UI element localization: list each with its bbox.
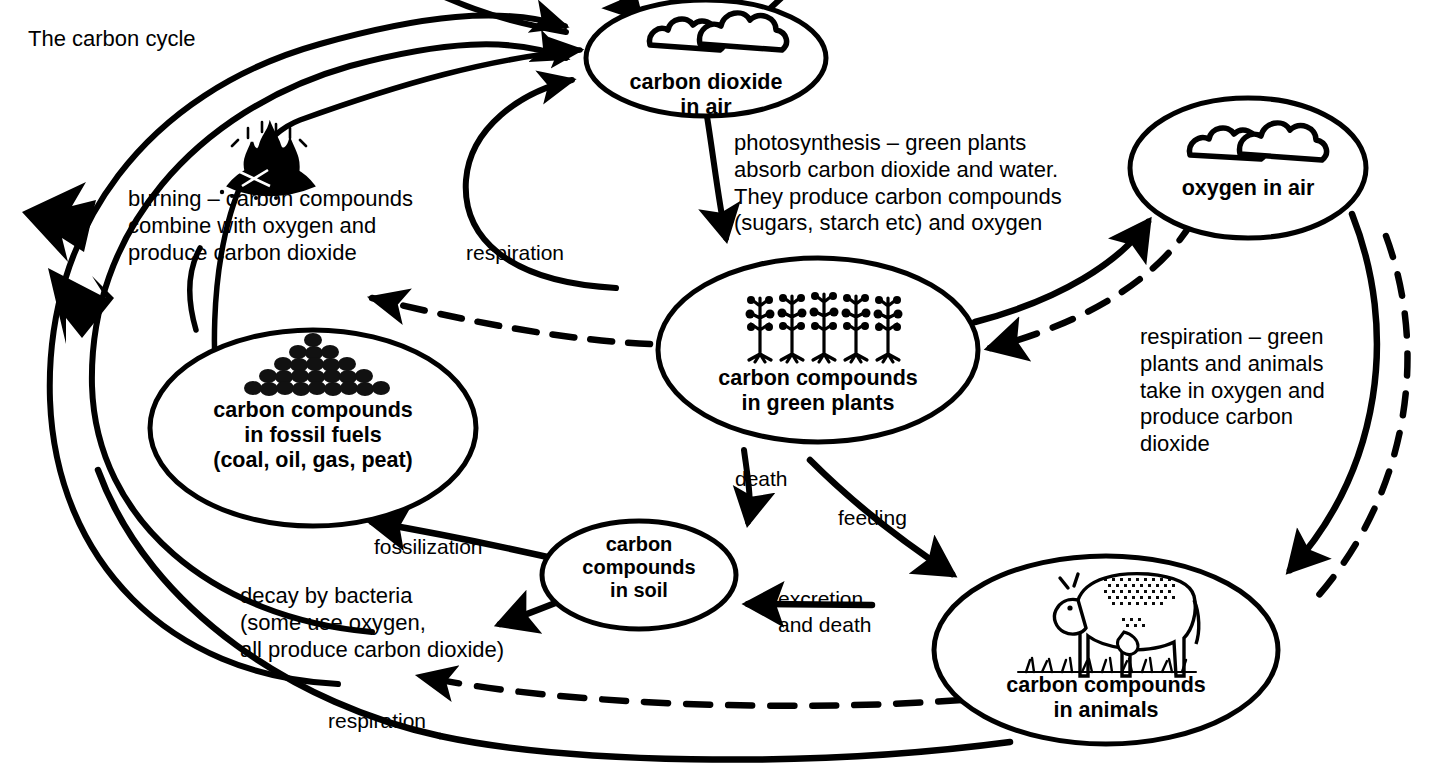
node-label-animals: carbon compounds in animals xyxy=(966,673,1246,723)
arrow-oxygen-to-animals-dashed xyxy=(1318,236,1407,596)
arrow-respiration-bottom xyxy=(440,736,1010,760)
node-label-soil: carbon compounds in soil xyxy=(562,533,716,603)
description-photosynthesis: photosynthesis – green plants absorb car… xyxy=(734,130,1062,237)
arrow-plants-to-fossil-dashed xyxy=(372,298,650,344)
carbon-cycle-diagram: The carbon cycle carbon dioxide in air o… xyxy=(0,0,1453,775)
node-label-oxygen: oxygen in air xyxy=(1148,176,1348,201)
arrow-label-death: death xyxy=(735,466,788,492)
description-decay: decay by bacteria (some use oxygen, all … xyxy=(240,583,504,663)
arrow-photosynthesis-co2-to-plants xyxy=(706,110,726,238)
arrow-label-excretion: excretion and death xyxy=(778,586,871,637)
page-title: The carbon cycle xyxy=(28,26,196,53)
arrow-label-fossilization: fossilization xyxy=(374,534,483,560)
arrow-label-respiration-plants: respiration xyxy=(466,240,564,266)
big-arrowhead-lower xyxy=(48,268,114,344)
arrow-animals-respiration-dashed xyxy=(420,676,962,706)
description-respiration-right: respiration – green plants and animals t… xyxy=(1140,324,1325,458)
node-label-plants: carbon compounds in green plants xyxy=(678,366,958,416)
node-label-fossil: carbon compounds in fossil fuels (coal, … xyxy=(168,398,458,473)
node-shape-oxygen xyxy=(1130,98,1366,238)
big-arrowhead-upper xyxy=(22,182,96,262)
node-label-co2: carbon dioxide in air xyxy=(606,70,806,120)
description-burning: burning – carbon compounds combine with … xyxy=(128,186,413,266)
arrow-label-feeding: feeding xyxy=(838,505,907,531)
arrow-label-respiration-bottom: respiration xyxy=(328,708,426,734)
